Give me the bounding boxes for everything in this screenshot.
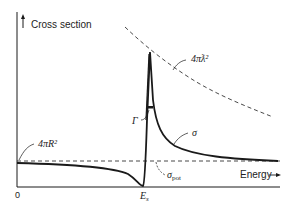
sigma-label: σ [192,127,198,138]
sigma-pot-label: σpot [167,169,181,182]
y-axis-label: Cross section [31,19,92,30]
cross-section-curve [17,52,278,186]
up-arrow-icon [21,14,25,28]
cross-section-diagram: Cross section 4πƛ² 4πR² Γ σ σpot Energy … [0,0,295,207]
resonance-energy-label: Es [139,190,149,203]
width-label: Γ [131,115,138,126]
sigma-pot-pointer [156,162,165,175]
unitarity-limit-pointer [173,60,186,70]
sigma-pointer [174,133,188,144]
geometric-limit-pointer [19,144,34,160]
geometric-limit-label: 4πR² [38,138,58,149]
width-bar [147,106,153,109]
x-axis-label: Energy [240,169,272,180]
unitarity-limit-label: 4πƛ² [191,53,209,64]
origin-label: 0 [15,190,20,200]
